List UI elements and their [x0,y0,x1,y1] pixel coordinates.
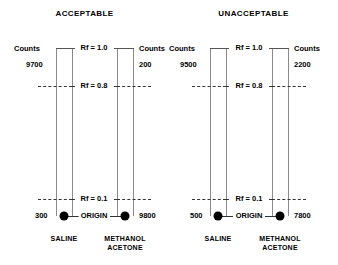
rf01-seg-left [69,199,75,200]
rf01-dash-left [38,199,72,200]
origin-seg-left [222,216,233,217]
origin-spot-saline [214,212,223,221]
rf08-seg-left [69,86,75,87]
rf08-dash-left [192,86,226,87]
counts-header-right: Counts [139,45,165,53]
origin-seg-right [110,216,121,217]
panel-title-unacceptable: UNACCEPTABLE [169,9,338,18]
lane2-right-rule [288,48,289,216]
lane-name-line2: ACETONE [90,243,160,252]
rf10-rule-right [269,48,289,49]
counts-header-left: Counts [14,45,40,53]
lane-name-methanol-acetone: METHANOL ACETONE [245,234,315,252]
rf08-dash-left [38,86,72,87]
counts-value-saline-origin: 300 [35,212,48,220]
origin-spot-saline [60,212,69,221]
counts-value-saline-top: 9500 [180,61,197,69]
rf-0-1-label: Rf = 0.1 [234,195,265,203]
origin-spot-methanol [121,212,130,221]
rf-1-0-label: Rf = 1.0 [79,44,110,52]
rf08-dash-right [117,86,151,87]
counts-value-methanol-top: 2200 [294,61,311,69]
rf01-dash-right [272,199,306,200]
lane1-left-rule [210,48,211,216]
counts-value-methanol-top: 200 [139,61,152,69]
lane-name-line1: METHANOL [245,234,315,243]
lane2-left-rule [272,48,273,216]
panel-acceptable: ACCEPTABLE Rf = 1.0 Rf = 0.8 Rf = 0.1 OR… [0,0,169,265]
origin-label: ORIGIN [234,212,265,220]
origin-label: ORIGIN [79,212,110,220]
rf10-rule-right [114,48,134,49]
rf-0-8-label: Rf = 0.8 [79,82,110,90]
panel-title-acceptable: ACCEPTABLE [0,9,169,18]
counts-value-saline-origin: 500 [190,212,203,220]
origin-seg-left [68,216,79,217]
tlc-comparison-figure: ACCEPTABLE Rf = 1.0 Rf = 0.8 Rf = 0.1 OR… [0,0,338,265]
origin-spot-methanol [276,212,285,221]
counts-value-saline-top: 9700 [26,61,43,69]
lane2-left-rule [117,48,118,216]
lane1-right-rule [72,48,73,216]
counts-header-left: Counts [169,45,195,53]
lane-name-saline: SALINE [51,234,78,243]
counts-header-right: Counts [294,45,320,53]
rf01-dash-right [117,199,151,200]
lane-name-line2: ACETONE [245,243,315,252]
rf01-seg-left [223,199,229,200]
lane1-right-rule [226,48,227,216]
rf10-rule-left [56,48,75,49]
rf01-dash-left [192,199,226,200]
rf-0-1-label: Rf = 0.1 [79,195,110,203]
panel-unacceptable: UNACCEPTABLE Rf = 1.0 Rf = 0.8 Rf = 0.1 … [169,0,338,265]
lane1-left-rule [56,48,57,216]
rf-1-0-label: Rf = 1.0 [234,44,265,52]
lane-name-methanol-acetone: METHANOL ACETONE [90,234,160,252]
counts-value-methanol-origin: 9800 [139,212,156,220]
origin-seg-right [265,216,276,217]
rf08-dash-right [272,86,306,87]
lane2-right-rule [133,48,134,216]
rf10-rule-left [210,48,229,49]
lane-name-saline: SALINE [205,234,232,243]
counts-value-methanol-origin: 7800 [294,212,311,220]
lane-name-line1: METHANOL [90,234,160,243]
rf08-seg-left [223,86,229,87]
rf-0-8-label: Rf = 0.8 [234,82,265,90]
